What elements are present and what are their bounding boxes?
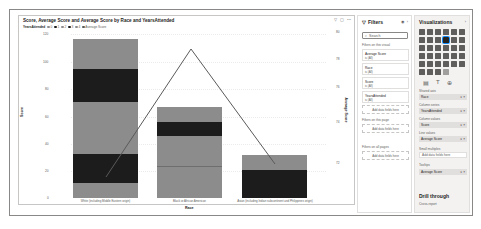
visualizations-header: Visualizations — [419, 19, 452, 25]
filled-map-icon[interactable] — [427, 53, 433, 59]
eye-icon[interactable]: ◉ — [401, 19, 404, 24]
collapse-pane-icon[interactable]: › — [407, 19, 408, 24]
stacked-column-chart-icon[interactable] — [427, 29, 433, 35]
tooltips-label: Tooltips — [419, 163, 430, 167]
analytics-magnifier-icon[interactable]: ⊕ — [447, 79, 452, 86]
kpi-icon[interactable] — [419, 61, 425, 67]
shared-axis-label: Shared axis — [419, 89, 436, 93]
filters-on-all-pages-label: Filters on all pages — [362, 145, 389, 149]
drill-through-heading: Drill through — [419, 193, 449, 199]
format-paint-roller-icon[interactable]: T — [436, 79, 440, 86]
y-right-tick: 76 — [336, 85, 340, 89]
visualizations-title: Visualizations — [419, 19, 452, 25]
add-visual-filter-drop[interactable]: Add data fields here — [362, 105, 409, 114]
slicer-icon[interactable] — [427, 61, 433, 67]
treemap-icon[interactable] — [459, 45, 465, 51]
filter-funnel-icon: ▽ — [362, 19, 366, 25]
scatter-chart-icon[interactable] — [435, 45, 441, 51]
filters-pane: ▽ Filters ◉ › ⌕ Search Filters on this v… — [357, 15, 412, 213]
collapse-pane-icon[interactable]: › — [465, 19, 466, 24]
line-values-label: Line values — [419, 131, 435, 135]
map-icon[interactable] — [419, 53, 425, 59]
line-values-well[interactable]: Average Score∨ × — [419, 136, 467, 142]
filter-card-years-attended[interactable]: YearsAttended is (All) — [362, 91, 409, 103]
qa-icon[interactable] — [435, 69, 441, 75]
column-series-label: Column series — [419, 103, 439, 107]
search-icon: ⌕ — [365, 34, 367, 38]
shared-axis-well[interactable]: Race∨ × — [419, 94, 467, 100]
gauge-icon[interactable] — [443, 53, 449, 59]
tooltips-well[interactable]: Average Score∨ × — [419, 169, 467, 175]
small-multiples-well[interactable]: Add data fields here — [419, 152, 467, 158]
y-right-tick: 72 — [336, 161, 340, 165]
line-and-stacked-column-chart-icon[interactable] — [443, 37, 449, 43]
filters-search-input[interactable]: ⌕ Search — [362, 32, 408, 39]
100-stacked-column-chart-icon[interactable] — [459, 29, 465, 35]
donut-chart-icon[interactable] — [451, 45, 457, 51]
average-score-line[interactable] — [19, 16, 356, 206]
matrix-icon[interactable] — [443, 61, 449, 67]
filter-card-average-score[interactable]: Average Score is (All) — [362, 49, 409, 61]
y-right-axis-title: Average Score — [344, 97, 348, 122]
clustered-bar-chart-icon[interactable] — [435, 29, 441, 35]
column-series-well[interactable]: YearsAttended∨ × — [419, 108, 467, 114]
x-axis-title: Race — [185, 206, 194, 210]
azure-map-icon[interactable] — [435, 53, 441, 59]
filters-on-page-label: Filters on this page — [362, 118, 389, 122]
100-stacked-bar-chart-icon[interactable] — [451, 29, 457, 35]
visualizations-pane: Visualizations › — [414, 15, 470, 213]
column-values-well[interactable]: Score∨ × — [419, 122, 467, 128]
clustered-column-chart-icon[interactable] — [443, 29, 449, 35]
visual-tools-row: ▤ T ⊕ — [423, 79, 452, 86]
x-tick-label: White (including Middle Eastern origin) — [65, 200, 146, 203]
stacked-bar-chart-icon[interactable] — [419, 29, 425, 35]
python-visual-icon[interactable] — [459, 61, 465, 67]
line-chart-icon[interactable] — [419, 37, 425, 43]
area-chart-icon[interactable] — [427, 37, 433, 43]
waterfall-chart-icon[interactable] — [419, 45, 425, 51]
visualizations-header-icons: › — [465, 19, 466, 24]
more-visuals-icon[interactable] — [443, 69, 449, 75]
add-page-filter-drop[interactable]: Add data fields here — [362, 124, 409, 133]
r-visual-icon[interactable] — [451, 61, 457, 67]
y-right-tick: 80 — [336, 30, 340, 34]
filter-card-score[interactable]: Score is (All) — [362, 77, 409, 89]
y-right-tick: 78 — [336, 57, 340, 61]
table-icon[interactable] — [435, 61, 441, 67]
multi-row-card-icon[interactable] — [459, 53, 465, 59]
card-icon[interactable] — [451, 53, 457, 59]
cross-report-label: Cross-report — [419, 202, 437, 206]
pie-chart-icon[interactable] — [443, 45, 449, 51]
visual-type-gallery — [419, 29, 466, 76]
add-report-filter-drop[interactable]: Add data fields here — [362, 151, 409, 160]
stacked-area-chart-icon[interactable] — [435, 37, 441, 43]
filters-header: ▽ Filters — [362, 19, 383, 25]
decomposition-tree-icon[interactable] — [427, 69, 433, 75]
ribbon-chart-icon[interactable] — [459, 37, 465, 43]
key-influencers-icon[interactable] — [419, 69, 425, 75]
funnel-chart-icon[interactable] — [427, 45, 433, 51]
small-multiples-label: Small multiples — [419, 147, 440, 151]
x-tick-label: Asian (including Indian subcontinent and… — [229, 200, 321, 203]
filters-title: Filters — [368, 19, 383, 25]
y-right-tick: 74 — [336, 120, 340, 124]
fields-build-icon[interactable]: ▤ — [423, 79, 429, 86]
filters-on-visual-label: Filters on this visual — [362, 43, 390, 47]
column-values-label: Column values — [419, 117, 440, 121]
x-tick-label: Black or African American — [149, 200, 230, 203]
filters-header-icons: ◉ › — [401, 19, 408, 24]
line-stacked-column-chart[interactable]: Score, Average Score and Average Score b… — [18, 15, 355, 205]
line-and-clustered-column-chart-icon[interactable] — [451, 37, 457, 43]
filter-card-race[interactable]: Race is (All) — [362, 63, 409, 75]
